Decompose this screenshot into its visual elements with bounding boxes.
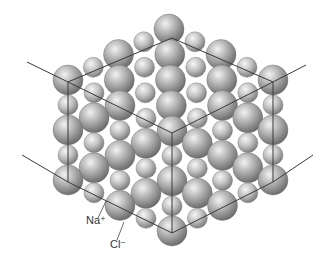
nacl-lattice-diagram xyxy=(0,0,332,264)
sodium-ion-label: Na⁺ xyxy=(86,214,106,227)
ion-spheres xyxy=(53,14,288,246)
chloride-ion-label: Cl⁻ xyxy=(110,238,126,251)
